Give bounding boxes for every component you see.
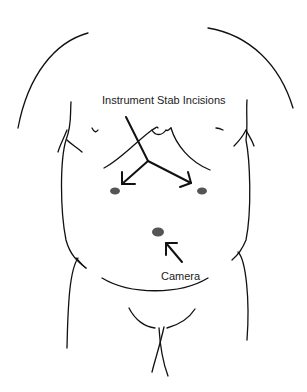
left-shoulder-line [18, 33, 88, 128]
camera-label: Camera [161, 270, 200, 282]
left-instrument-port-dot [110, 188, 120, 195]
left-arm-inner-lower [76, 258, 86, 268]
groin-right [167, 309, 195, 328]
costal-margin-right [171, 128, 210, 170]
instrument-pointer-line [126, 117, 148, 161]
right-nipple-mark [216, 128, 223, 130]
right-instrument-port-dot [197, 188, 207, 195]
diagram-canvas: Instrument Stab Incisions Camera [0, 0, 307, 392]
groin-left [129, 308, 155, 328]
torso-drawing [0, 0, 307, 392]
right-axilla-fold [234, 130, 246, 146]
left-axilla-fold [67, 140, 82, 152]
arrow-right-instrument [148, 161, 191, 183]
left-nipple-mark [92, 128, 98, 132]
penis-right [159, 328, 168, 376]
arrow-camera [166, 243, 182, 262]
right-hip-line [238, 252, 248, 340]
penis-left [152, 327, 164, 372]
left-torso-contour [62, 102, 87, 268]
arrow-left-instrument [122, 161, 148, 184]
camera-port-dot [152, 228, 164, 237]
left-hip-line [67, 258, 78, 348]
right-torso-contour [232, 100, 250, 260]
instrument-incisions-label: Instrument Stab Incisions [102, 94, 226, 106]
